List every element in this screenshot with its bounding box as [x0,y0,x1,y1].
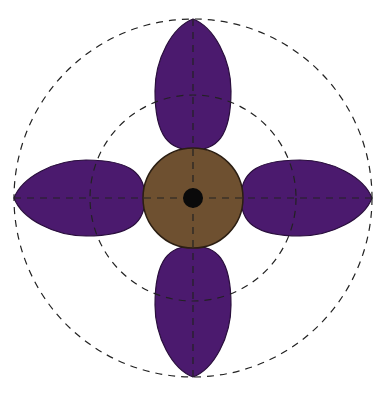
center-dot [183,188,203,208]
flower-diagram [0,0,385,396]
